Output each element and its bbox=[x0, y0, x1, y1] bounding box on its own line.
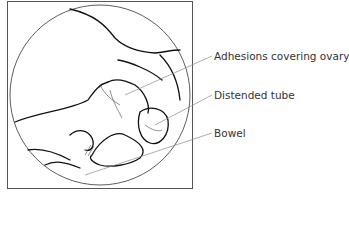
label-adhesions-covering-ovary: Adhesions covering ovary bbox=[214, 50, 349, 62]
label-bowel: Bowel bbox=[214, 127, 246, 139]
label-distended-tube: Distended tube bbox=[214, 89, 295, 101]
leader-lines bbox=[85, 56, 212, 175]
